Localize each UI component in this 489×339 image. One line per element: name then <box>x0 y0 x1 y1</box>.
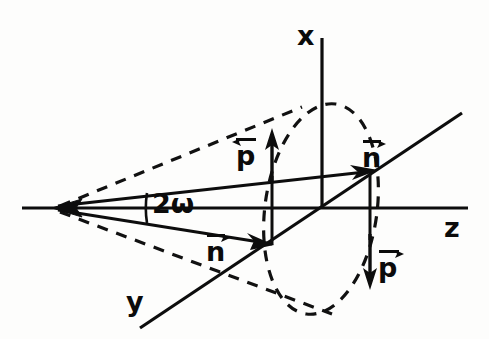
angle-arc-path <box>146 193 147 223</box>
axis-label-y: y <box>126 288 144 315</box>
vector-label-p-upper: p <box>236 138 255 169</box>
angle-arc <box>146 193 147 223</box>
axis-label-x: x <box>297 22 314 49</box>
axis-y-line <box>140 113 462 328</box>
axis-y <box>140 113 462 328</box>
p-upper-vector-arrowhead <box>231 134 241 152</box>
n-upper-vector-arrowhead <box>377 136 387 154</box>
vector-label-n-upper: n <box>362 140 381 171</box>
cone-diagram-figure: x z y 2ω n p n <box>0 0 489 339</box>
vector-label-n-lower: n <box>206 234 225 265</box>
vector-label-p-lower: p <box>378 250 397 281</box>
angle-label-2omega: 2ω <box>152 190 194 217</box>
cone-dashed-generators <box>60 107 332 314</box>
n-lower-vector-arrowhead <box>221 230 231 248</box>
axis-label-z: z <box>444 214 460 241</box>
p-lower-vector-arrowhead <box>395 246 405 264</box>
